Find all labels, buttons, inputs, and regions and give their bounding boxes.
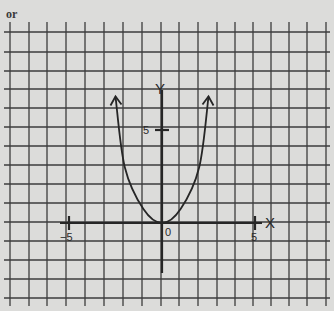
axes <box>60 90 262 273</box>
x-axis-label: X <box>265 214 275 231</box>
x-tick-label: −5 <box>60 231 73 243</box>
axis-labels: XY0−555 <box>60 80 275 243</box>
graph-paper: XY0−555 <box>0 0 334 311</box>
y-axis-label: Y <box>155 80 165 97</box>
y-tick-label: 5 <box>143 124 149 136</box>
origin-label: 0 <box>165 226 171 238</box>
grid-lines <box>4 22 330 306</box>
x-tick-label: 5 <box>251 231 257 243</box>
